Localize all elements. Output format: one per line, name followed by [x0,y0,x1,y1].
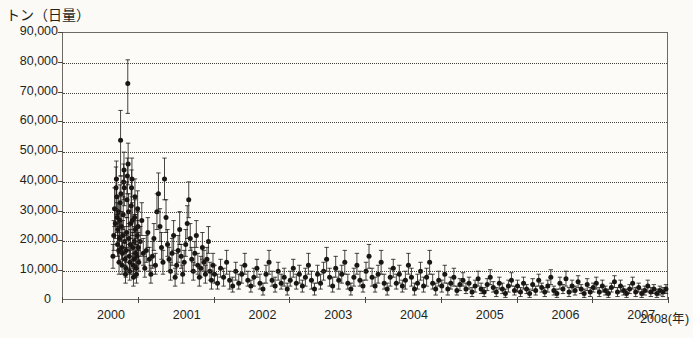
data-point [145,230,150,235]
data-point [230,284,235,289]
data-points-layer [63,33,669,301]
data-point [203,272,208,277]
y-axis-tick-mark [58,121,63,122]
data-point [303,275,308,280]
y-axis-tick-label: 50,000 [0,143,58,157]
gridline-y [63,93,667,94]
data-point [354,263,359,268]
x-axis-tick-label: 2006 [526,308,606,322]
data-point [309,278,314,283]
x-axis-tick-label: 2001 [147,308,227,322]
data-point [118,200,123,205]
data-point [415,281,420,286]
data-point [494,290,499,295]
data-point [536,278,541,283]
data-point [182,260,187,265]
y-axis-tick-mark [58,270,63,271]
data-point [509,278,514,283]
data-point [391,266,396,271]
y-axis-zero-label: 0 [44,292,51,306]
data-point [267,260,272,265]
data-point [200,245,205,250]
data-point [336,278,341,283]
data-point [165,242,170,247]
data-point [136,260,141,265]
data-point [139,218,144,223]
data-point [270,278,275,283]
data-point [406,263,411,268]
data-point [448,281,453,286]
data-point [173,275,178,280]
data-point [132,215,137,220]
data-point [260,287,265,292]
data-point [170,251,175,256]
gridline-y [63,152,667,153]
data-point [385,287,390,292]
data-point [227,278,232,283]
data-point [118,191,123,196]
data-point [194,233,199,238]
data-point [176,248,181,253]
x-axis-tick-label: 2004 [374,308,454,322]
data-point [576,279,581,284]
data-point [439,284,444,289]
data-point [379,260,384,265]
data-point [342,260,347,265]
data-point [360,284,365,289]
data-point [167,257,172,262]
y-axis-tick-label: 80,000 [0,54,58,68]
x-axis-tick-mark [62,297,63,303]
data-point [156,191,161,196]
y-axis-tick-mark [58,211,63,212]
data-point [171,233,176,238]
data-point [563,276,568,281]
data-point [306,263,311,268]
data-point [367,254,372,259]
data-point [318,281,323,286]
data-point [215,281,220,286]
data-point [663,287,668,292]
data-point [123,257,128,262]
data-point [179,254,184,259]
y-axis-tick-label: 40,000 [0,173,58,187]
y-axis-tick-label: 90,000 [0,24,58,38]
data-point [144,248,149,253]
data-point [373,284,378,289]
data-point [122,185,127,190]
data-point [142,266,147,271]
data-point [291,266,296,271]
data-point [159,245,164,250]
data-point [135,233,140,238]
data-point [135,206,140,211]
data-point [285,287,290,292]
data-point [188,236,193,241]
data-point [164,215,169,220]
gridline-y [63,63,667,64]
data-point [427,260,432,265]
data-point [151,236,156,241]
data-point [409,275,414,280]
gridline-y [63,271,667,272]
x-axis-tick-label: 2008(年) [640,308,693,327]
x-axis-tick-mark [138,297,139,303]
data-point [174,263,179,268]
gridline-y [63,212,667,213]
y-axis-tick-label: 10,000 [0,262,58,276]
data-point [582,291,587,296]
data-point [397,272,402,277]
data-point [330,284,335,289]
data-point [403,278,408,283]
data-point [183,242,188,247]
data-point [533,288,538,293]
data-point [180,272,185,277]
data-point [424,275,429,280]
data-point [148,272,153,277]
y-axis-tick-mark [58,92,63,93]
data-point [476,276,481,281]
data-point [157,224,162,229]
y-axis-tick-mark [58,32,63,33]
x-axis-tick-mark [441,297,442,303]
data-point [467,281,472,286]
data-point [548,275,553,280]
data-point [134,272,139,277]
